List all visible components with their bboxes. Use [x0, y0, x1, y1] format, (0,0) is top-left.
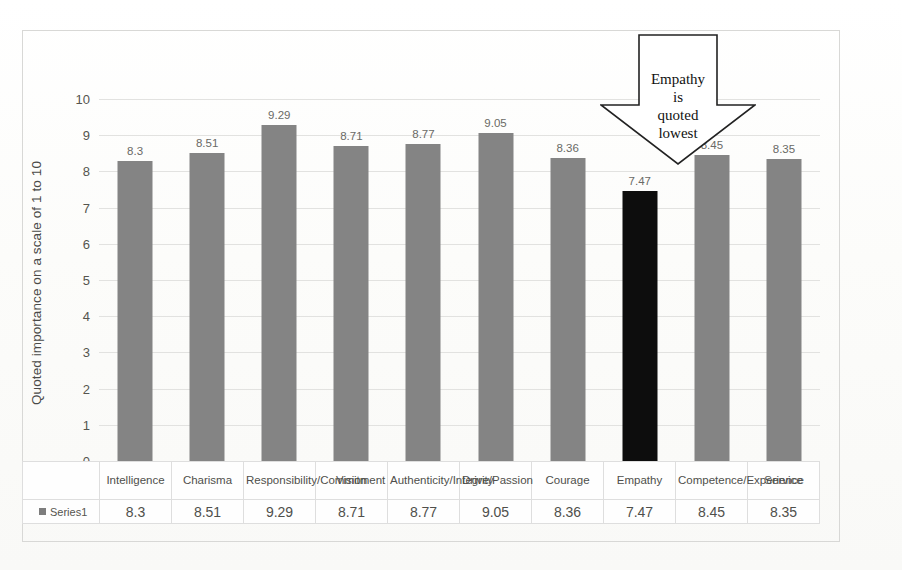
table-cell-value: 8.36 — [532, 500, 604, 524]
data-table: IntelligenceCharismaResponsibility/Commi… — [22, 461, 820, 523]
callout-line-4: lowest — [600, 124, 756, 142]
bar-responsibility-commitment[interactable] — [262, 125, 297, 461]
bar-courage[interactable] — [550, 158, 585, 461]
bar-value-label: 8.77 — [412, 128, 434, 140]
table-cell-category: Charisma — [172, 462, 244, 500]
table-cell-category: Courage — [532, 462, 604, 500]
bar-slot: 8.36 — [532, 99, 604, 461]
table-cell-category: Responsibility/Commitment — [244, 462, 316, 500]
bar-empathy[interactable] — [622, 191, 657, 461]
callout-line-3: quoted — [600, 106, 756, 124]
bar-value-label: 8.36 — [556, 142, 578, 154]
bar-charisma[interactable] — [190, 153, 225, 461]
table-cell-value: 8.51 — [172, 500, 244, 524]
bar-value-label: 8.3 — [127, 145, 143, 157]
legend-label: Series1 — [50, 506, 87, 518]
bar-slot: 8.51 — [171, 99, 243, 461]
y-axis-tick-label: 3 — [83, 345, 90, 360]
legend-entry-series1: Series1 — [25, 506, 97, 518]
bar-intelligence[interactable] — [118, 161, 153, 461]
callout-line-1: Empathy — [600, 70, 756, 88]
table-cell-value: 8.3 — [100, 500, 172, 524]
bar-vision[interactable] — [334, 146, 369, 461]
y-axis-tick-label: 7 — [83, 200, 90, 215]
table-cell-category: Intelligence — [100, 462, 172, 500]
bar-value-label: 8.35 — [773, 143, 795, 155]
bar-value-label: 9.05 — [484, 117, 506, 129]
table-cell-value: 9.05 — [460, 500, 532, 524]
y-axis-tick-label: 6 — [83, 236, 90, 251]
table-cell-category: Drive/Passion — [460, 462, 532, 500]
legend-cell: Series1 — [23, 500, 100, 524]
y-axis-tick-label: 10 — [76, 92, 90, 107]
bar-slot: 9.05 — [460, 99, 532, 461]
bar-slot: 8.3 — [99, 99, 171, 461]
bar-service[interactable] — [766, 159, 801, 461]
table-cell-value: 9.29 — [244, 500, 316, 524]
callout-line-2: is — [600, 88, 756, 106]
chart-page: Quoted importance on a scale of 1 to 10 … — [0, 0, 902, 570]
y-axis-tick-label: 8 — [83, 164, 90, 179]
y-axis-tick-label: 9 — [83, 128, 90, 143]
table-cell-value: 7.47 — [604, 500, 676, 524]
y-axis-title: Quoted importance on a scale of 1 to 10 — [26, 118, 48, 448]
bar-value-label: 7.47 — [629, 175, 651, 187]
bar-slot: 9.29 — [243, 99, 315, 461]
data-table-grid: IntelligenceCharismaResponsibility/Commi… — [22, 461, 820, 524]
y-axis-tick-label: 2 — [83, 381, 90, 396]
legend-swatch-icon — [39, 508, 46, 515]
callout-arrow-annotation: Empathy is quoted lowest — [600, 34, 756, 166]
bar-value-label: 8.71 — [340, 130, 362, 142]
bar-slot: 8.35 — [748, 99, 820, 461]
table-cell-value: 8.77 — [388, 500, 460, 524]
bar-drive-passion[interactable] — [478, 133, 513, 461]
table-cell-value: 8.45 — [676, 500, 748, 524]
bar-value-label: 8.51 — [196, 137, 218, 149]
table-stub-empty — [23, 462, 100, 500]
bar-slot: 8.71 — [315, 99, 387, 461]
callout-text: Empathy is quoted lowest — [600, 70, 756, 142]
table-cell-category: Authenticity/Integrity — [388, 462, 460, 500]
y-axis-tick-label: 5 — [83, 273, 90, 288]
table-cell-category: Competence/Experience — [676, 462, 748, 500]
bar-slot: 8.77 — [387, 99, 459, 461]
bar-authenticity-integrity[interactable] — [406, 144, 441, 461]
table-row-values: Series1 8.38.519.298.718.779.058.367.478… — [23, 500, 820, 524]
table-row-categories: IntelligenceCharismaResponsibility/Commi… — [23, 462, 820, 500]
table-cell-value: 8.71 — [316, 500, 388, 524]
bar-competence-experience[interactable] — [694, 155, 729, 461]
y-axis-tick-label: 4 — [83, 309, 90, 324]
y-axis-tick-label: 1 — [83, 417, 90, 432]
bar-value-label: 9.29 — [268, 109, 290, 121]
table-cell-category: Empathy — [604, 462, 676, 500]
table-cell-value: 8.35 — [748, 500, 820, 524]
